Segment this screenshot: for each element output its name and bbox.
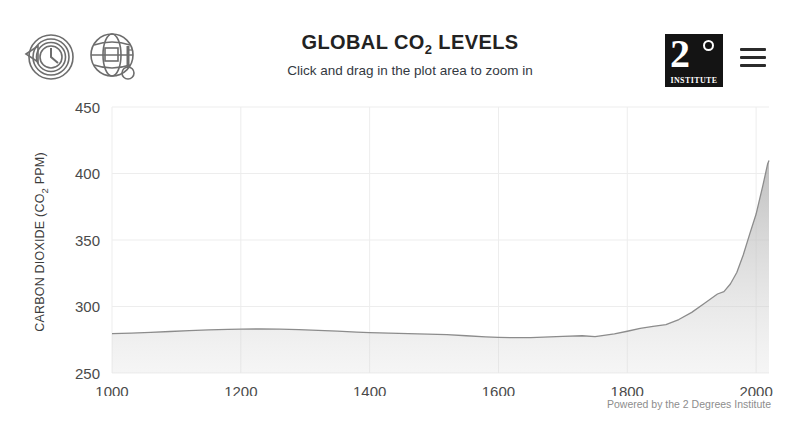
x-tick-label: 1200 <box>224 383 257 396</box>
degree-symbol-icon <box>703 40 714 51</box>
x-tick-label: 1800 <box>611 383 644 396</box>
page-subtitle: Click and drag in the plot area to zoom … <box>200 63 620 79</box>
logo-number: 2 <box>670 32 690 76</box>
menu-bar <box>740 56 766 59</box>
globe-thermometer-icon[interactable] <box>84 26 146 88</box>
x-tick-label: 1400 <box>353 383 386 396</box>
data-area-fill <box>112 160 769 373</box>
co2-area-chart[interactable]: 250300350400450 100012001400160018002000… <box>0 96 801 396</box>
page-title-tail: LEVELS <box>432 31 518 53</box>
x-tick-label: 2000 <box>739 383 772 396</box>
y-axis-title: CARBON DIOXIDE (CO2 PPM) <box>33 152 50 332</box>
title-block: GLOBAL CO2 LEVELS Click and drag in the … <box>200 30 620 79</box>
y-tick-label: 450 <box>75 99 100 116</box>
y-tick-label: 350 <box>75 232 100 249</box>
y-tick-label: 250 <box>75 365 100 382</box>
hamburger-menu-icon[interactable] <box>740 48 766 70</box>
page-title: GLOBAL CO2 LEVELS <box>200 30 620 54</box>
clock-history-icon[interactable] <box>18 26 80 88</box>
x-tick-label: 1000 <box>95 383 128 396</box>
page-title-main: GLOBAL CO <box>301 31 424 53</box>
menu-bar <box>740 48 766 51</box>
logo-name: INSTITUTE <box>665 76 723 85</box>
x-tick-label: 1600 <box>482 383 515 396</box>
y-tick-label: 300 <box>75 298 100 315</box>
y-tick-label: 400 <box>75 165 100 182</box>
chart-plot-container[interactable]: 250300350400450 100012001400160018002000… <box>0 96 801 396</box>
menu-bar <box>740 64 766 67</box>
two-degrees-institute-logo[interactable]: 2 INSTITUTE <box>665 34 723 87</box>
data-line <box>112 160 769 337</box>
x-axis-tick-labels: 100012001400160018002000 <box>95 383 772 396</box>
powered-by-credit: Powered by the 2 Degrees Institute <box>0 398 771 411</box>
y-axis-tick-labels: 250300350400450 <box>75 99 100 382</box>
page-header: GLOBAL CO2 LEVELS Click and drag in the … <box>0 0 801 100</box>
